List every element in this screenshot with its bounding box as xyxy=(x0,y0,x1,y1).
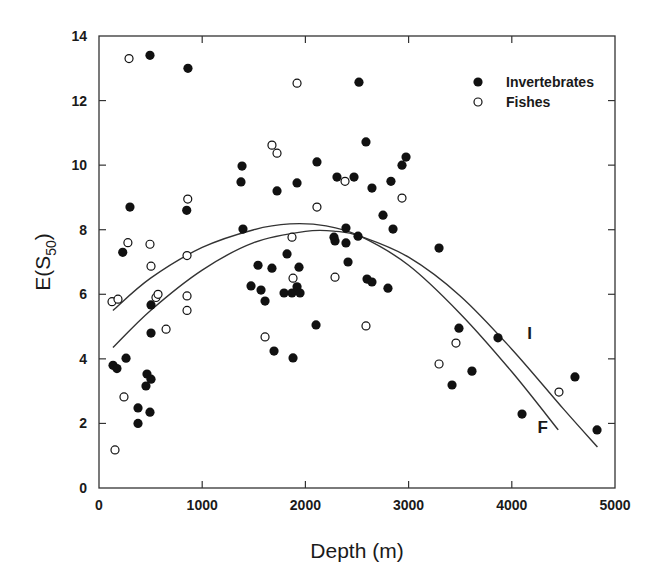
legend-invertebrates-label: Invertebrates xyxy=(506,74,594,90)
point-invertebrates xyxy=(401,152,410,161)
point-fishes xyxy=(331,273,339,281)
point-invertebrates xyxy=(570,372,579,381)
point-fishes xyxy=(154,290,162,298)
point-fishes xyxy=(268,141,276,149)
point-fishes xyxy=(261,333,269,341)
point-invertebrates xyxy=(312,157,321,166)
point-invertebrates xyxy=(260,296,269,305)
x-tick-label: 1000 xyxy=(187,497,218,513)
x-tick-label: 4000 xyxy=(496,497,527,513)
point-invertebrates xyxy=(288,353,297,362)
curve-label-F: F xyxy=(538,418,548,437)
point-invertebrates xyxy=(592,425,601,434)
point-invertebrates xyxy=(237,162,246,171)
y-tick-label: 0 xyxy=(79,480,87,496)
point-fishes xyxy=(555,388,563,396)
point-fishes xyxy=(184,195,192,203)
point-fishes xyxy=(183,252,191,260)
point-fishes xyxy=(124,239,132,247)
point-invertebrates xyxy=(238,224,247,233)
point-invertebrates xyxy=(256,285,265,294)
point-fishes xyxy=(120,393,128,401)
point-invertebrates xyxy=(467,367,476,376)
point-invertebrates xyxy=(182,206,191,215)
point-invertebrates xyxy=(133,419,142,428)
x-tick-label: 3000 xyxy=(393,497,424,513)
point-fishes xyxy=(435,360,443,368)
legend: Invertebrates Fishes xyxy=(473,74,594,110)
legend-fishes-marker xyxy=(474,98,482,106)
point-invertebrates xyxy=(269,347,278,356)
data-points xyxy=(108,51,602,454)
y-tick-label: 2 xyxy=(79,415,87,431)
point-fishes xyxy=(111,446,119,454)
point-invertebrates xyxy=(311,320,320,329)
point-invertebrates xyxy=(267,264,276,273)
point-invertebrates xyxy=(378,211,387,220)
x-tick-label: 0 xyxy=(95,497,103,513)
point-invertebrates xyxy=(332,172,341,181)
y-tick-label: 12 xyxy=(71,93,87,109)
legend-fishes-label: Fishes xyxy=(506,94,551,110)
x-tick-label: 5000 xyxy=(599,497,630,513)
point-invertebrates xyxy=(434,244,443,253)
point-invertebrates xyxy=(118,248,127,257)
point-fishes xyxy=(341,177,349,185)
point-invertebrates xyxy=(133,403,142,412)
point-invertebrates xyxy=(341,224,350,233)
point-invertebrates xyxy=(125,203,134,212)
svg-text:E(S50): E(S50) xyxy=(31,233,59,291)
point-fishes xyxy=(162,325,170,333)
y-tick-label: 14 xyxy=(71,28,87,44)
point-fishes xyxy=(125,55,133,63)
y-axis-title: E(S50) xyxy=(31,233,59,291)
point-fishes xyxy=(452,339,460,347)
point-invertebrates xyxy=(367,183,376,192)
point-invertebrates xyxy=(367,277,376,286)
point-invertebrates xyxy=(246,281,255,290)
y-tick-label: 4 xyxy=(79,351,87,367)
point-invertebrates xyxy=(292,178,301,187)
curve-labels: FI xyxy=(527,324,548,437)
point-invertebrates xyxy=(146,328,155,337)
point-invertebrates xyxy=(145,408,154,417)
curve-label-I: I xyxy=(527,324,532,343)
point-invertebrates xyxy=(294,263,303,272)
point-invertebrates xyxy=(272,186,281,195)
y-axis-title-main: E(S xyxy=(31,256,54,291)
point-fishes xyxy=(398,194,406,202)
legend-invertebrates-marker xyxy=(473,77,482,86)
point-fishes xyxy=(362,322,370,330)
point-invertebrates xyxy=(236,177,245,186)
point-fishes xyxy=(183,306,191,314)
point-invertebrates xyxy=(145,51,154,60)
point-invertebrates xyxy=(386,177,395,186)
point-invertebrates xyxy=(282,249,291,258)
point-invertebrates xyxy=(354,78,363,87)
point-invertebrates xyxy=(341,238,350,247)
point-fishes xyxy=(114,295,122,303)
y-tick-label: 6 xyxy=(79,286,87,302)
point-invertebrates xyxy=(447,380,456,389)
point-fishes xyxy=(146,240,154,248)
point-fishes xyxy=(183,292,191,300)
point-invertebrates xyxy=(253,261,262,270)
point-invertebrates xyxy=(112,364,121,373)
point-fishes xyxy=(273,149,281,157)
point-fishes xyxy=(293,79,301,87)
point-invertebrates xyxy=(517,409,526,418)
y-tick-label: 8 xyxy=(79,222,87,238)
point-invertebrates xyxy=(295,288,304,297)
point-invertebrates xyxy=(388,224,397,233)
point-invertebrates xyxy=(279,288,288,297)
point-invertebrates xyxy=(383,284,392,293)
x-tick-label: 2000 xyxy=(290,497,321,513)
x-axis-title: Depth (m) xyxy=(310,539,403,562)
point-invertebrates xyxy=(361,137,370,146)
point-invertebrates xyxy=(330,236,339,245)
y-axis-title-close: ) xyxy=(31,233,54,240)
point-fishes xyxy=(289,274,297,282)
point-invertebrates xyxy=(343,257,352,266)
scatter-chart: 01000200030004000500002468101214 Inverte… xyxy=(0,0,652,584)
point-invertebrates xyxy=(349,172,358,181)
